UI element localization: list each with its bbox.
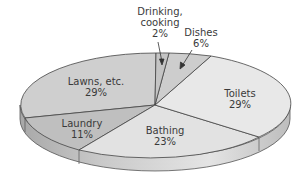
label-bathing-pct: 23% <box>146 136 185 147</box>
label-bathing-name: Bathing <box>146 125 185 136</box>
label-lawns-name: Lawns, etc. <box>68 76 125 87</box>
label-drinking-name: Drinking, <box>137 6 182 17</box>
label-dishes: Dishes 6% <box>184 27 217 49</box>
label-lawns-pct: 29% <box>68 87 125 98</box>
label-bathing: Bathing 23% <box>146 125 185 147</box>
label-dishes-pct: 6% <box>184 38 217 49</box>
label-laundry-pct: 11% <box>62 129 103 140</box>
label-lawns: Lawns, etc. 29% <box>68 76 125 98</box>
label-drinking: Drinking, cooking 2% <box>137 6 182 39</box>
label-laundry-name: Laundry <box>62 118 103 129</box>
label-drinking-name2: cooking <box>137 17 182 28</box>
label-toilets-pct: 29% <box>224 99 255 110</box>
label-laundry: Laundry 11% <box>62 118 103 140</box>
label-dishes-name: Dishes <box>184 27 217 38</box>
label-drinking-pct: 2% <box>137 28 182 39</box>
label-toilets: Toilets 29% <box>224 88 255 110</box>
pie-chart: Drinking, cooking 2% Dishes 6% Toilets 2… <box>0 0 307 182</box>
label-toilets-name: Toilets <box>224 88 255 99</box>
